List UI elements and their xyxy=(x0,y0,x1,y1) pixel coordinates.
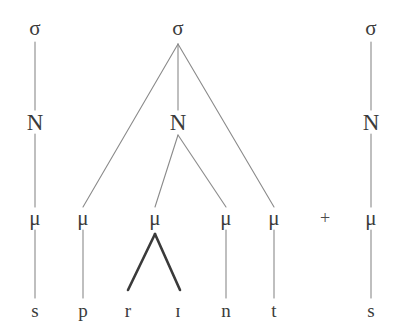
segment-node-t: t xyxy=(271,301,276,320)
segment-node-p: p xyxy=(78,301,88,320)
segment-node-r: r xyxy=(125,301,131,320)
segment-node-s-last: s xyxy=(367,301,374,320)
node-label-layer: σ σ σ N N N μ μ μ μ μ μ + s p r ɪ n t s xyxy=(0,0,406,333)
segment-node-n: n xyxy=(221,301,231,320)
mora-node-6: μ xyxy=(365,208,376,229)
mora-node-3: μ xyxy=(149,208,160,229)
mora-node-2: μ xyxy=(77,208,88,229)
syllable-structure-diagram: σ σ σ N N N μ μ μ μ μ μ + s p r ɪ n t s xyxy=(0,0,406,333)
segment-node-s-first: s xyxy=(31,301,38,320)
mora-node-5: μ xyxy=(268,208,279,229)
sigma-node-right: σ xyxy=(365,18,376,39)
segment-node-i: ɪ xyxy=(175,301,180,320)
nucleus-node-right: N xyxy=(363,111,380,134)
mora-node-1: μ xyxy=(29,208,40,229)
nucleus-node-center: N xyxy=(170,111,187,134)
plus-operator: + xyxy=(320,209,330,227)
mora-node-4: μ xyxy=(220,208,231,229)
sigma-node-center: σ xyxy=(172,18,183,39)
nucleus-node-left: N xyxy=(27,111,44,134)
sigma-node-left: σ xyxy=(29,18,40,39)
